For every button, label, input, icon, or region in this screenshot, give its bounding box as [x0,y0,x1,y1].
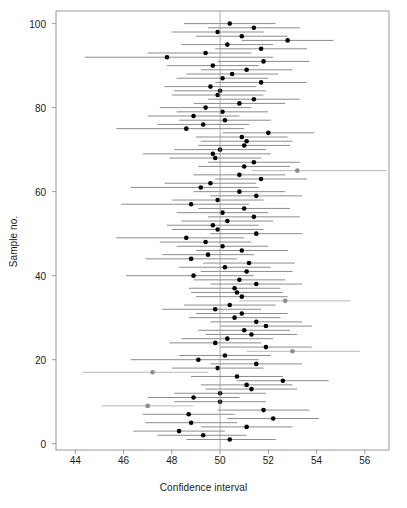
x-tick-label: 50 [215,455,226,466]
mean-point [186,412,191,417]
mean-point [211,63,216,68]
y-tick-label: 40 [12,270,46,281]
mean-point [244,68,249,73]
mean-point [235,290,240,295]
mean-point [281,378,286,383]
mean-point [242,164,247,169]
mean-point [213,307,218,312]
mean-point [220,76,225,81]
mean-point [247,261,252,266]
mean-point [261,408,266,413]
y-tick-label: 0 [12,438,46,449]
mean-point [249,387,254,392]
mean-point [208,84,213,89]
mean-points-layer [145,21,299,441]
mean-point [223,118,228,123]
mean-point [227,21,232,26]
mean-point [211,152,216,157]
mean-point [196,357,201,362]
plot-canvas [0,0,407,508]
y-tick-label: 100 [12,18,46,29]
mean-point [215,198,220,203]
mean-point [271,416,276,421]
mean-point [240,135,245,140]
mean-point [242,143,247,148]
mean-point [259,177,264,182]
mean-point [266,131,271,136]
mean-point [211,223,216,228]
mean-point [184,126,189,131]
mean-point [215,366,220,371]
mean-point [213,156,218,161]
x-tick-label: 52 [263,455,274,466]
mean-point [191,114,196,119]
mean-point [203,51,208,56]
mean-point [285,38,290,43]
mean-point [225,219,230,224]
mean-point [240,34,245,39]
mean-point [184,236,189,241]
mean-point [223,265,228,270]
mean-point [145,404,150,409]
mean-point [242,328,247,333]
mean-point [225,42,230,47]
mean-point [295,168,300,173]
mean-point [177,429,182,434]
mean-point [244,383,249,388]
mean-point [232,315,237,320]
mean-point [290,349,295,354]
confidence-interval-plot: Confidence interval Sample no. 444648505… [0,0,407,508]
mean-point [254,282,259,287]
mean-point [254,194,259,199]
mean-point [244,425,249,430]
mean-point [242,206,247,211]
mean-point [240,311,245,316]
mean-point [244,269,249,274]
x-tick-label: 46 [118,455,129,466]
mean-point [240,294,245,299]
mean-point [203,240,208,245]
mean-point [252,26,257,31]
mean-point [220,210,225,215]
x-axis-title: Confidence interval [0,482,407,493]
interval-lines-layer [83,24,387,440]
mean-point [283,299,288,304]
mean-point [208,181,213,186]
mean-point [223,353,228,358]
mean-point [201,122,206,127]
mean-point [261,59,266,64]
mean-point [189,257,194,262]
mean-point [165,55,170,60]
mean-point [220,110,225,115]
mean-point [237,173,242,178]
mean-point [220,244,225,249]
mean-point [227,303,232,308]
mean-point [237,101,242,106]
y-tick-label: 60 [12,186,46,197]
mean-point [213,341,218,346]
mean-point [225,336,230,341]
mean-point [206,252,211,257]
mean-point [249,332,254,337]
mean-point [252,215,257,220]
y-tick-label: 80 [12,102,46,113]
mean-point [189,202,194,207]
mean-point [252,160,257,165]
mean-point [254,320,259,325]
mean-point [254,231,259,236]
mean-point [237,278,242,283]
mean-point [264,345,269,350]
x-tick-label: 48 [166,455,177,466]
mean-point [201,433,206,438]
mean-point [150,370,155,375]
mean-point [189,420,194,425]
mean-point [203,105,208,110]
x-tick-label: 44 [70,455,81,466]
mean-point [264,324,269,329]
mean-point [230,72,235,77]
mean-point [227,437,232,442]
mean-point [191,395,196,400]
mean-point [215,93,220,98]
mean-point [232,286,237,291]
mean-point [244,139,249,144]
